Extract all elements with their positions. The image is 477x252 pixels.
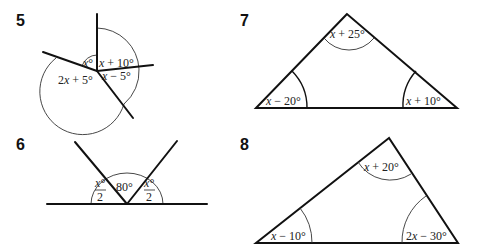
- angle-label-left: x − 20°: [265, 94, 301, 108]
- angle-label-80: 80°: [116, 180, 133, 194]
- angle-label-x-plus-10: x + 10°: [98, 56, 134, 70]
- problem-6: 6 x° 2 80° x° 2: [16, 136, 207, 204]
- problem-7: 7 x + 25° x − 20° x + 10°: [240, 12, 457, 108]
- angle-label-top: x + 20°: [363, 160, 399, 174]
- problem-5: 5 x° x + 10° x − 5° 2x + 5°: [16, 12, 153, 135]
- ray-right: [127, 141, 177, 204]
- angle-label-top: x + 25°: [329, 27, 365, 41]
- problem-number: 7: [240, 12, 249, 29]
- problem-8: 8 x + 20° x − 10° 2x − 30°: [240, 136, 458, 243]
- angle-label-x-minus-5: x − 5°: [101, 69, 131, 83]
- fraction-denominator: 2: [146, 190, 152, 204]
- problem-number: 8: [240, 136, 249, 153]
- geometry-diagrams: 5 x° x + 10° x − 5° 2x + 5° 6 x° 2 80° x…: [0, 0, 477, 252]
- angle-label-left: x − 10°: [270, 229, 306, 243]
- problem-number: 6: [16, 136, 25, 153]
- angle-label-right: x + 10°: [405, 94, 441, 108]
- angle-label-x: x°: [82, 56, 93, 70]
- fraction-numerator: x°: [94, 176, 105, 190]
- fraction-denominator: 2: [97, 190, 103, 204]
- angle-label-2x-plus-5: 2x + 5°: [58, 73, 93, 87]
- angle-label-right: 2x − 30°: [406, 229, 447, 243]
- fraction-numerator: x°: [143, 176, 154, 190]
- problem-number: 5: [16, 12, 25, 29]
- triangle: [256, 138, 458, 243]
